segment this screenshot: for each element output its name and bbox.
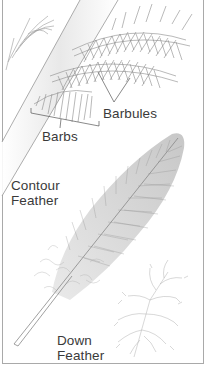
down-feather-label: Down Feather [57,333,117,363]
down-feather [114,260,188,357]
down-feather-label-line1: Down [57,333,117,348]
barbs-label: Barbs [42,129,78,144]
contour-feather-label-line2: Feather [11,193,71,208]
contour-feather-label-line1: Contour [11,178,71,193]
down-feather-label-line2: Feather [57,348,117,363]
contour-feather [14,133,184,346]
rachis-closeup [2,0,118,196]
barbules-label: Barbules [103,106,157,121]
contour-feather-label: Contour Feather [11,178,71,208]
